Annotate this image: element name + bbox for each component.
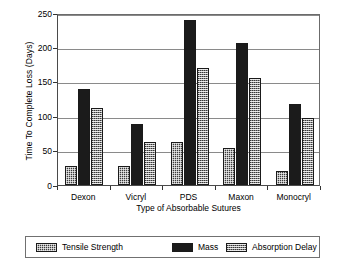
legend-label: Mass xyxy=(198,242,218,252)
x-axis-tick xyxy=(162,186,163,190)
x-axis-tick-label-vicryl: Vicryl xyxy=(126,192,147,202)
y-axis-tick-label: 250 xyxy=(20,10,52,19)
legend-entry-absorption-delay: Absorption Delay xyxy=(226,242,317,252)
bar-dexon-absorption xyxy=(91,108,103,185)
bar-group-maxon xyxy=(223,15,261,185)
x-axis-tick xyxy=(110,186,111,190)
x-axis-tick xyxy=(215,186,216,190)
legend-label: Tensile Strength xyxy=(62,242,123,252)
legend-swatch-tensile xyxy=(36,243,57,252)
x-axis-tick-label-dexon: Dexon xyxy=(71,192,96,202)
bar-pds-mass xyxy=(184,20,196,185)
chart-legend: Tensile StrengthMassAbsorption Delay xyxy=(25,236,320,258)
bar-maxon-mass xyxy=(236,43,248,185)
y-axis-title: Time To Complete Loss (Days) xyxy=(24,16,34,186)
legend-entry-tensile-strength: Tensile Strength xyxy=(36,242,123,252)
legend-label: Absorption Delay xyxy=(252,242,317,252)
bar-maxon-absorption xyxy=(249,78,261,185)
bar-dexon-tensile xyxy=(65,166,77,185)
y-axis-tick-label: 100 xyxy=(20,113,52,122)
bar-monocryl-tensile xyxy=(276,171,288,185)
bar-pds-tensile xyxy=(171,142,183,185)
bar-dexon-mass xyxy=(78,89,90,185)
bar-group-vicryl xyxy=(118,15,156,185)
y-axis-tick-label: 200 xyxy=(20,44,52,53)
x-axis-tick-label-monocryl: Monocryl xyxy=(276,192,310,202)
bar-group-monocryl xyxy=(276,15,314,185)
bar-maxon-tensile xyxy=(223,148,235,185)
legend-swatch-absorption xyxy=(226,243,247,252)
bar-monocryl-absorption xyxy=(302,118,314,185)
bar-vicryl-absorption xyxy=(144,142,156,185)
bar-vicryl-mass xyxy=(131,124,143,185)
x-axis-tick xyxy=(57,186,58,190)
y-axis-tick-label: 0 xyxy=(20,182,52,191)
x-axis-tick xyxy=(267,186,268,190)
legend-entry-mass: Mass xyxy=(172,242,218,252)
x-axis-tick-label-maxon: Maxon xyxy=(228,192,254,202)
bar-vicryl-tensile xyxy=(118,166,130,185)
bar-pds-absorption xyxy=(197,68,209,185)
y-axis-tick-label: 150 xyxy=(20,78,52,87)
bar-group-pds xyxy=(171,15,209,185)
plot-area xyxy=(57,14,320,186)
bar-monocryl-mass xyxy=(289,104,301,185)
x-axis-tick xyxy=(320,186,321,190)
x-axis-tick-label-pds: PDS xyxy=(180,192,197,202)
x-axis-title: Type of Absorbable Sutures xyxy=(57,203,320,213)
figure: Time To Complete Loss (Days) 05010015020… xyxy=(0,0,345,267)
y-axis-tick-label: 50 xyxy=(20,147,52,156)
bar-group-dexon xyxy=(65,15,103,185)
legend-swatch-mass xyxy=(172,243,193,252)
